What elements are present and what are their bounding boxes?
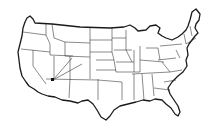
us-outline-map [0,0,218,132]
location-marker-icon [51,78,54,81]
us-country-outline [18,9,200,120]
